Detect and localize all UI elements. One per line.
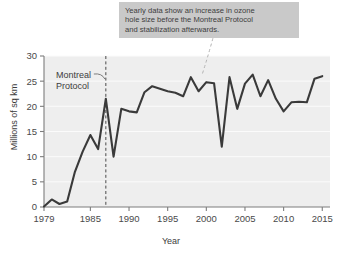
y-axis-title: Millions of sq km	[9, 67, 19, 167]
ozone-hole-figure: 051015202530 197919851990199520002005201…	[0, 0, 342, 261]
annotation-callout: Yearly data show an increase in ozone ho…	[119, 2, 299, 38]
y-tick-label: 15	[26, 126, 37, 137]
y-tick-label: 10	[26, 151, 37, 162]
x-tick-label: 1985	[80, 213, 101, 224]
x-tick-label: 1995	[157, 213, 178, 224]
x-tick-label: 2010	[273, 213, 294, 224]
annotation-line-2: hole size before the Montreal Protocol	[125, 15, 294, 24]
x-tick-label: 2005	[234, 213, 255, 224]
montreal-protocol-label-line-2: Protocol	[56, 81, 91, 92]
x-tick-label: 1990	[118, 213, 139, 224]
montreal-protocol-label: Montreal Protocol	[56, 70, 91, 91]
y-tick-label: 30	[26, 50, 37, 61]
x-axis-ticks: 19791985199019952000200520102015	[33, 207, 332, 224]
line-chart: 051015202530 197919851990199520002005201…	[0, 0, 342, 261]
y-axis-ticks: 051015202530	[26, 50, 44, 212]
montreal-protocol-label-line-1: Montreal	[56, 70, 91, 81]
x-tick-label: 2000	[196, 213, 217, 224]
y-tick-label: 20	[26, 101, 37, 112]
annotation-line-3: and stabilization afterwards.	[125, 25, 294, 34]
y-tick-label: 25	[26, 76, 37, 87]
x-axis-title: Year	[0, 236, 342, 246]
annotation-line-1: Yearly data show an increase in ozone	[125, 6, 294, 15]
y-tick-label: 0	[32, 201, 37, 212]
x-tick-label: 2015	[312, 213, 333, 224]
y-tick-label: 5	[32, 176, 37, 187]
x-tick-label: 1979	[33, 213, 54, 224]
